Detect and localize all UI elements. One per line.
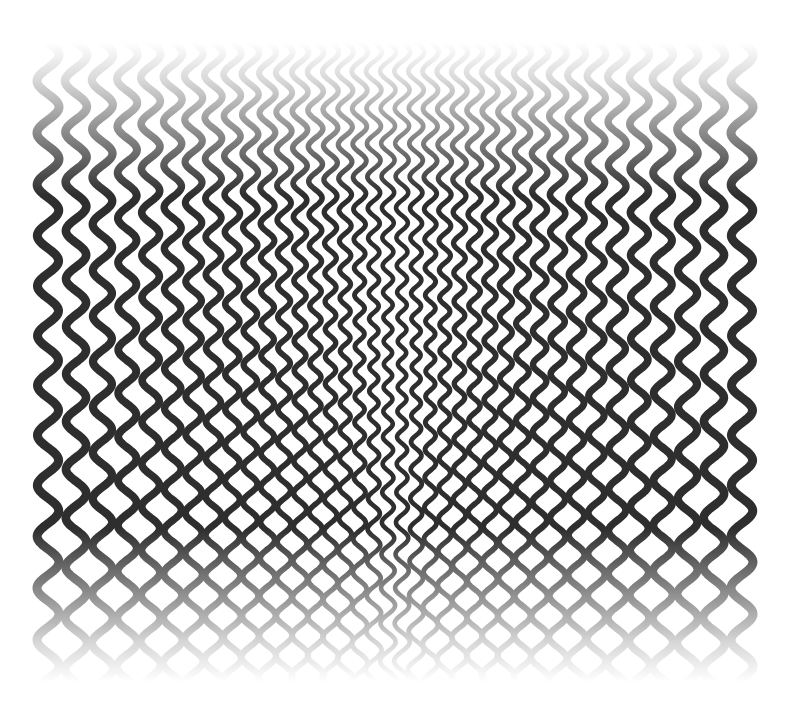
wavy-line <box>587 42 606 682</box>
wavy-line <box>292 42 309 682</box>
wavy-line <box>92 42 113 682</box>
wavy-line-group <box>37 42 753 682</box>
wavy-line <box>677 42 698 682</box>
op-art-canvas <box>0 0 792 701</box>
wavy-line <box>351 42 367 682</box>
wavy-line <box>337 42 353 682</box>
wavy-line <box>531 42 549 682</box>
wavy-line <box>451 42 467 682</box>
wavy-line <box>141 42 161 682</box>
wavy-line <box>223 42 241 682</box>
wavy-line <box>394 42 410 682</box>
wavy-line <box>652 42 673 682</box>
wavy-lines-artwork <box>0 0 792 701</box>
wavy-line <box>608 42 627 682</box>
wavy-line <box>242 42 260 682</box>
wavy-line <box>514 42 531 682</box>
wavy-line <box>630 42 650 682</box>
wavy-line <box>408 42 424 682</box>
wavy-line <box>37 42 59 682</box>
wavy-line <box>482 42 499 682</box>
wavy-line <box>549 42 567 682</box>
wavy-line <box>163 42 182 682</box>
wavy-line <box>567 42 585 682</box>
wavy-line <box>307 42 323 682</box>
wavy-line <box>498 42 515 682</box>
wavy-line <box>184 42 203 682</box>
wavy-line <box>437 42 453 682</box>
wavy-line <box>65 42 87 682</box>
wavy-line <box>703 42 725 682</box>
wavy-line <box>466 42 482 682</box>
wavy-line <box>117 42 138 682</box>
wavy-line <box>276 42 293 682</box>
wavy-line <box>204 42 222 682</box>
wavy-line <box>731 42 753 682</box>
wavy-line <box>259 42 276 682</box>
